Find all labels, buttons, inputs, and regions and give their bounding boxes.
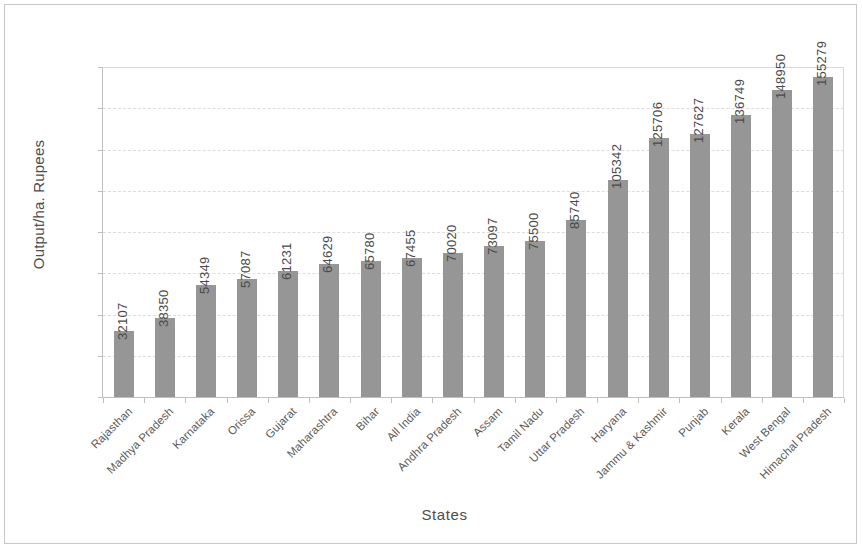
bar[interactable] xyxy=(525,241,545,397)
y-tick-mark xyxy=(98,273,103,274)
x-tick-mark xyxy=(803,398,804,403)
bar-value-label: 127627 xyxy=(691,98,706,143)
x-tick-mark xyxy=(268,398,269,403)
y-tick-mark xyxy=(98,150,103,151)
x-tick-mark xyxy=(309,398,310,403)
x-tick-mark xyxy=(679,398,680,403)
bar[interactable] xyxy=(237,279,257,397)
y-tick-mark xyxy=(98,356,103,357)
x-tick-mark xyxy=(844,398,845,403)
bar-value-label: 105342 xyxy=(609,144,624,189)
bar-value-label: 136749 xyxy=(732,79,747,124)
bar-value-label: 64629 xyxy=(320,235,335,273)
bar-value-label: 70020 xyxy=(444,224,459,262)
bar[interactable] xyxy=(690,134,710,397)
bar[interactable] xyxy=(114,331,134,397)
x-tick-mark xyxy=(515,398,516,403)
x-tick-mark xyxy=(391,398,392,403)
bar[interactable] xyxy=(813,77,833,397)
y-tick-mark xyxy=(98,191,103,192)
y-axis-title: Output/ha. Rupees xyxy=(30,95,47,315)
x-tick-mark xyxy=(103,398,104,403)
y-tick-mark xyxy=(98,67,103,68)
bar-value-label: 67455 xyxy=(403,229,418,267)
bar-value-label: 65780 xyxy=(362,233,377,271)
bar-value-label: 75500 xyxy=(526,213,541,251)
x-tick-mark xyxy=(350,398,351,403)
x-tick-mark xyxy=(227,398,228,403)
x-tick-mark xyxy=(144,398,145,403)
x-tick-mark xyxy=(474,398,475,403)
bar-value-label: 73097 xyxy=(485,218,500,256)
bar[interactable] xyxy=(731,115,751,397)
x-tick-mark xyxy=(721,398,722,403)
bar[interactable] xyxy=(155,318,175,397)
x-tick-mark xyxy=(432,398,433,403)
plot-area: 0200004000060000800001000001200001400001… xyxy=(102,67,844,398)
x-tick-mark xyxy=(638,398,639,403)
bar-value-label: 61231 xyxy=(279,242,294,280)
bar-value-label: 57087 xyxy=(238,251,253,289)
y-tick-mark xyxy=(98,315,103,316)
bar[interactable] xyxy=(443,253,463,397)
bar-chart-figure: Output/ha. Rupees 0200004000060000800001… xyxy=(0,0,863,551)
bar[interactable] xyxy=(608,180,628,397)
bar-value-label: 85740 xyxy=(567,192,582,230)
bar-value-label: 125706 xyxy=(650,102,665,147)
bar[interactable] xyxy=(278,271,298,397)
x-tick-mark xyxy=(597,398,598,403)
bar[interactable] xyxy=(402,258,422,397)
y-tick-mark xyxy=(98,108,103,109)
bar[interactable] xyxy=(319,264,339,397)
bar[interactable] xyxy=(772,90,792,397)
bar-value-label: 54349 xyxy=(197,256,212,294)
bar-value-label: 148950 xyxy=(773,54,788,99)
bar-value-label: 32107 xyxy=(115,302,130,340)
x-axis-title: States xyxy=(0,506,863,523)
x-tick-mark xyxy=(556,398,557,403)
bar[interactable] xyxy=(361,261,381,397)
x-tick-mark xyxy=(185,398,186,403)
bar-value-label: 38350 xyxy=(156,289,171,327)
y-tick-mark xyxy=(98,232,103,233)
bar[interactable] xyxy=(484,246,504,397)
x-axis-title-text: States xyxy=(421,506,467,523)
y-gridline xyxy=(103,67,844,68)
bar[interactable] xyxy=(566,220,586,397)
x-tick-mark xyxy=(762,398,763,403)
bar-value-label: 155279 xyxy=(814,41,829,86)
bar[interactable] xyxy=(196,285,216,397)
bar[interactable] xyxy=(649,138,669,397)
